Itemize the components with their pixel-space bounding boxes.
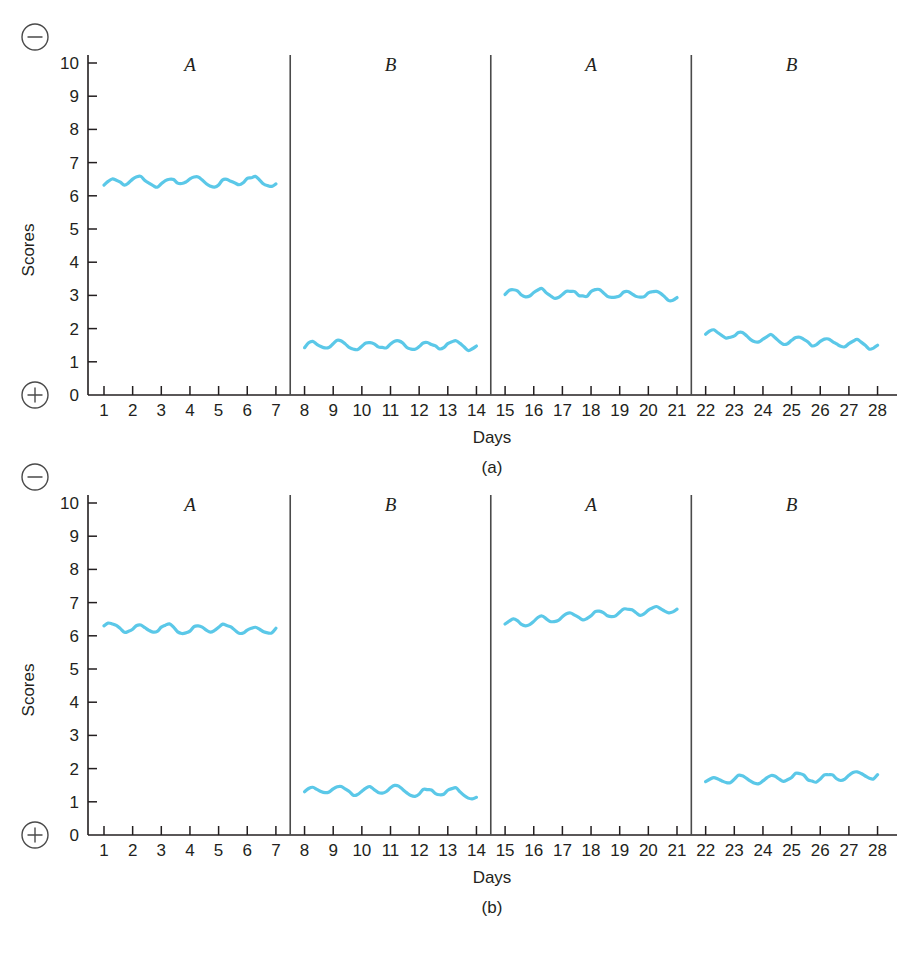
data-series-phase-2 bbox=[305, 785, 477, 799]
x-tick-label: 25 bbox=[782, 841, 801, 860]
y-tick-label: 0 bbox=[70, 826, 79, 845]
y-axis-title-a: Scores bbox=[19, 224, 38, 277]
x-tick-label: 19 bbox=[610, 841, 629, 860]
chart-panel-a: 012345678910 123456789101112131415161718… bbox=[0, 0, 908, 480]
x-tick-label: 11 bbox=[382, 401, 400, 420]
x-tick-label: 22 bbox=[696, 401, 715, 420]
x-tick-label: 22 bbox=[696, 841, 715, 860]
x-tick-label: 4 bbox=[185, 841, 194, 860]
x-tick-label: 14 bbox=[467, 401, 486, 420]
x-tick-label: 20 bbox=[639, 401, 658, 420]
x-tick-label: 10 bbox=[352, 401, 371, 420]
x-tick-label: 23 bbox=[725, 841, 744, 860]
x-tick-label: 23 bbox=[725, 401, 744, 420]
x-tick-label: 13 bbox=[438, 401, 457, 420]
y-tick-label: 4 bbox=[70, 253, 79, 272]
y-tick-label: 2 bbox=[70, 760, 79, 779]
x-tick-label: 3 bbox=[157, 841, 166, 860]
phase-label-b-3: B bbox=[786, 54, 798, 75]
x-tick-label: 16 bbox=[524, 401, 543, 420]
y-tick-label: 1 bbox=[70, 793, 79, 812]
phase-label-b-1: B bbox=[385, 54, 397, 75]
x-tick-label: 6 bbox=[243, 841, 252, 860]
data-series-phase-1 bbox=[104, 623, 276, 634]
chart-svg-b: 012345678910 123456789101112131415161718… bbox=[0, 440, 908, 920]
x-tick-label: 26 bbox=[811, 841, 830, 860]
y-tick-label: 1 bbox=[70, 353, 79, 372]
y-tick-label: 6 bbox=[70, 627, 79, 646]
x-tick-label: 25 bbox=[782, 401, 801, 420]
x-tick-label: 26 bbox=[811, 401, 830, 420]
x-tick-label: 15 bbox=[496, 841, 515, 860]
y-tick-label: 3 bbox=[70, 726, 79, 745]
x-tick-label: 24 bbox=[753, 841, 772, 860]
y-tick-label: 0 bbox=[70, 386, 79, 405]
x-tick-label: 12 bbox=[410, 401, 429, 420]
phase-label-a-0: A bbox=[182, 54, 196, 75]
x-tick-label: 1 bbox=[99, 401, 108, 420]
data-series-phase-4 bbox=[706, 330, 878, 350]
y-tick-label: 7 bbox=[70, 594, 79, 613]
data-series-phase-4 bbox=[706, 772, 878, 784]
x-tick-label: 5 bbox=[214, 841, 223, 860]
x-tick-label: 17 bbox=[553, 401, 572, 420]
phase-label-b-1: B bbox=[385, 494, 397, 515]
figure-container: 012345678910 123456789101112131415161718… bbox=[0, 0, 908, 959]
x-tick-label: 9 bbox=[328, 401, 337, 420]
x-tick-label: 8 bbox=[300, 841, 309, 860]
x-tick-label: 13 bbox=[438, 841, 457, 860]
x-tick-label: 28 bbox=[868, 401, 887, 420]
x-tick-label: 11 bbox=[382, 841, 400, 860]
data-series-phase-3 bbox=[505, 288, 677, 300]
data-series-phase-1 bbox=[104, 176, 276, 187]
phase-label-a-0: A bbox=[182, 494, 196, 515]
x-tick-label: 16 bbox=[524, 841, 543, 860]
phase-label-a-2: A bbox=[583, 54, 597, 75]
x-tick-label: 21 bbox=[668, 401, 687, 420]
y-tick-label: 5 bbox=[70, 220, 79, 239]
x-tick-label: 17 bbox=[553, 841, 572, 860]
x-axis-title-b: Days bbox=[473, 868, 512, 887]
phase-label-b-3: B bbox=[786, 494, 798, 515]
x-tick-label: 7 bbox=[271, 841, 280, 860]
x-tick-label: 9 bbox=[328, 841, 337, 860]
x-tick-label: 10 bbox=[352, 841, 371, 860]
y-tick-label: 10 bbox=[60, 494, 79, 513]
x-tick-label: 5 bbox=[214, 401, 223, 420]
y-tick-label: 3 bbox=[70, 286, 79, 305]
y-tick-label: 4 bbox=[70, 693, 79, 712]
y-tick-label: 5 bbox=[70, 660, 79, 679]
y-tick-label: 9 bbox=[70, 527, 79, 546]
x-tick-label: 15 bbox=[496, 401, 515, 420]
y-tick-label: 10 bbox=[60, 54, 79, 73]
chart-svg-a: 012345678910 123456789101112131415161718… bbox=[0, 0, 908, 480]
x-tick-label: 14 bbox=[467, 841, 486, 860]
panel-caption-b: (b) bbox=[482, 898, 503, 917]
x-tick-label: 3 bbox=[157, 401, 166, 420]
x-tick-label: 27 bbox=[839, 841, 858, 860]
x-tick-label: 27 bbox=[839, 401, 858, 420]
y-tick-label: 9 bbox=[70, 87, 79, 106]
x-tick-label: 4 bbox=[185, 401, 194, 420]
y-tick-label: 8 bbox=[70, 560, 79, 579]
y-tick-label: 7 bbox=[70, 154, 79, 173]
x-tick-label: 8 bbox=[300, 401, 309, 420]
x-tick-label: 19 bbox=[610, 401, 629, 420]
data-series-phase-2 bbox=[305, 340, 477, 351]
x-tick-label: 7 bbox=[271, 401, 280, 420]
y-tick-label: 6 bbox=[70, 187, 79, 206]
x-tick-label: 28 bbox=[868, 841, 887, 860]
x-tick-label: 12 bbox=[410, 841, 429, 860]
x-tick-label: 2 bbox=[128, 841, 137, 860]
y-tick-label: 2 bbox=[70, 320, 79, 339]
x-tick-label: 1 bbox=[99, 841, 108, 860]
x-tick-label: 18 bbox=[582, 401, 601, 420]
x-tick-label: 18 bbox=[582, 841, 601, 860]
y-tick-label: 8 bbox=[70, 120, 79, 139]
x-tick-label: 6 bbox=[243, 401, 252, 420]
phase-label-a-2: A bbox=[583, 494, 597, 515]
x-tick-label: 20 bbox=[639, 841, 658, 860]
data-series-phase-3 bbox=[505, 606, 677, 625]
chart-panel-b: 012345678910 123456789101112131415161718… bbox=[0, 440, 908, 920]
y-axis-title-b: Scores bbox=[19, 664, 38, 717]
